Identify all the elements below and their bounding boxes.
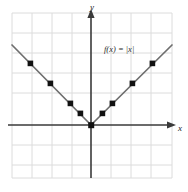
data-point [68,101,74,107]
data-point [88,122,94,128]
data-point [48,81,54,87]
y-axis-label: y [89,2,94,12]
data-point [130,81,136,87]
x-axis-label: x [177,123,182,133]
data-point [110,101,116,107]
absolute-value-function-graph: y x f(x) = |x| [0,0,188,192]
data-point [100,111,106,117]
data-point [28,61,34,67]
data-point [78,111,84,117]
data-point [150,61,156,67]
function-label: f(x) = |x| [104,44,134,54]
plot-background [0,0,188,192]
